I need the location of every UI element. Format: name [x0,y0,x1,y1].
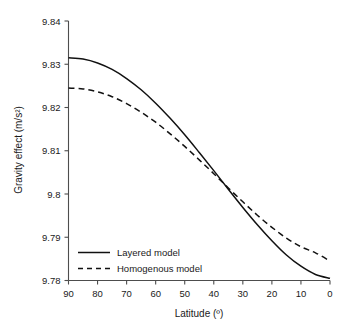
legend-label-layered-model: Layered model [117,247,180,258]
x-axis-tick-labels: 9080706050403020100 [63,288,332,299]
y-tick-label: 9.78 [42,275,61,286]
y-axis-tick-marks [65,21,69,281]
y-tick-label: 9.82 [42,102,61,113]
x-tick-label: 30 [238,288,249,299]
y-tick-label: 9.83 [42,59,61,70]
x-tick-label: 70 [121,288,132,299]
chart-legend: Layered model Homogenous model [78,247,202,274]
y-axis-title: Gravity effect (m/s²) [13,106,24,194]
y-tick-label: 9.8 [47,189,60,200]
gravity-latitude-chart: 9.789.799.89.819.829.839.84 908070605040… [0,0,341,334]
y-tick-label: 9.79 [42,232,61,243]
x-axis-title: Latitude (º) [175,308,224,319]
legend-label-homogenous-model: Homogenous model [117,263,202,274]
x-tick-label: 80 [92,288,103,299]
series-line-homogenous-model [69,88,331,261]
series-line-layered-model [69,58,331,279]
x-tick-label: 40 [208,288,219,299]
x-tick-label: 0 [327,288,332,299]
y-tick-label: 9.81 [42,145,61,156]
x-tick-label: 90 [63,288,74,299]
x-tick-label: 20 [267,288,278,299]
x-tick-label: 10 [296,288,307,299]
y-tick-label: 9.84 [42,16,61,27]
x-tick-label: 60 [150,288,161,299]
y-axis-tick-labels: 9.789.799.89.819.829.839.84 [42,16,61,287]
x-axis-tick-marks [69,281,331,285]
x-tick-label: 50 [179,288,190,299]
chart-canvas: 9.789.799.89.819.829.839.84 908070605040… [0,0,341,334]
